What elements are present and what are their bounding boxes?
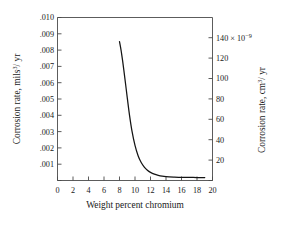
x-tick-label: 2 — [71, 186, 75, 195]
x-tick-label: 16 — [177, 186, 185, 195]
x-axis-title: Weight percent chromium — [86, 200, 184, 210]
y2-tick-label: 80 — [216, 95, 224, 104]
y2-tick-label: 100 — [216, 74, 228, 83]
x-tick-label: 18 — [193, 186, 201, 195]
x-tick-label: 0 — [55, 186, 59, 195]
y-tick-label: .009 — [40, 30, 54, 39]
y-axis-title-right: Corrosion rate, cm3/ yr — [256, 66, 268, 153]
chart-figure: .010 .009 .008 .007 .006 .005 .004 .003 … — [0, 0, 281, 226]
y2-tick-label: 20 — [216, 156, 224, 165]
y2-tick-label: 60 — [216, 115, 224, 124]
x-axis-labels: 0 2 4 6 8 10 12 14 16 18 20 — [55, 186, 216, 195]
x-tick-label: 14 — [162, 186, 170, 195]
y-axis-right-ticks — [209, 38, 213, 181]
y-tick-label: .008 — [40, 46, 54, 55]
y-tick-label: .003 — [40, 128, 54, 137]
y-axis-left-ticks — [58, 18, 62, 181]
x-tick-label: 6 — [102, 186, 106, 195]
y-axis-title-left: Corrosion rate, mils3/ yr — [11, 53, 23, 144]
corrosion-rate-curve — [120, 42, 205, 178]
y-tick-label: .004 — [40, 111, 54, 120]
y-tick-label: .007 — [40, 62, 54, 71]
y-tick-label: .005 — [40, 95, 54, 104]
y-axis-right-labels: 140 × 10−9 120 100 80 60 40 20 — [216, 31, 252, 165]
x-tick-label: 12 — [146, 186, 154, 195]
x-tick-label: 4 — [86, 186, 90, 195]
y2-tick-label-top: 140 × 10−9 — [216, 31, 252, 43]
x-tick-label: 8 — [117, 186, 121, 195]
plot-frame — [58, 18, 213, 181]
corrosion-rate-chart: .010 .009 .008 .007 .006 .005 .004 .003 … — [0, 0, 281, 226]
y2-tick-label: 40 — [216, 136, 224, 145]
y-tick-label: .010 — [40, 13, 54, 22]
x-tick-label: 20 — [208, 186, 216, 195]
y-tick-label: .006 — [40, 79, 54, 88]
y-axis-left-labels: .010 .009 .008 .007 .006 .005 .004 .003 … — [40, 13, 54, 169]
y2-tick-label: 120 — [216, 54, 228, 63]
x-tick-label: 10 — [131, 186, 139, 195]
y-tick-label: .001 — [40, 160, 54, 169]
y-tick-label: .002 — [40, 144, 54, 153]
